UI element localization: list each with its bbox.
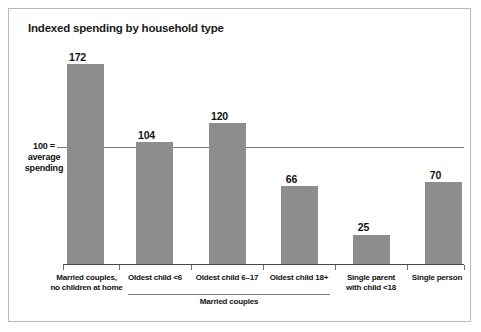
category-label-6: Single person (407, 273, 467, 283)
category-label-4: Oldest child 18+ (263, 273, 335, 283)
y-axis-caption-line-2: average (23, 152, 65, 163)
bar-2[interactable] (136, 142, 173, 264)
axis-tick-5 (335, 265, 336, 270)
axis-tick-2 (119, 265, 120, 270)
category-label-1-line-2: no children at home (49, 283, 124, 293)
axis-tick-7 (464, 265, 465, 270)
y-axis-caption-line-1: 100 = (23, 141, 65, 152)
bar-4[interactable] (281, 186, 318, 264)
bar-6[interactable] (425, 182, 462, 264)
bar-value-2: 104 (118, 129, 175, 141)
category-label-1: Married couples, no children at home (49, 273, 124, 293)
axis-tick-3 (191, 265, 192, 270)
axis-tick-4 (263, 265, 264, 270)
bar-value-1: 172 (49, 51, 106, 63)
axis-tick-6 (407, 265, 408, 270)
bar-value-4: 66 (263, 173, 320, 185)
category-label-4-line-1: Oldest child 18+ (263, 273, 335, 283)
category-label-2: Oldest child <6 (119, 273, 191, 283)
plot-area: 100 = average spending 172 104 120 66 25… (9, 9, 472, 323)
category-label-3: Oldest child 6–17 (191, 273, 263, 283)
category-label-1-line-1: Married couples, (49, 273, 124, 283)
axis-tick-1 (63, 265, 64, 270)
category-label-5-line-1: Single parent (335, 273, 407, 283)
category-label-5: Single parent with child <18 (335, 273, 407, 293)
bar-5[interactable] (353, 235, 390, 264)
category-label-3-line-1: Oldest child 6–17 (191, 273, 263, 283)
bar-3[interactable] (209, 123, 246, 264)
bar-value-5: 25 (335, 221, 392, 233)
y-axis-caption-line-3: spending (23, 163, 65, 174)
group-bracket-label: Married couples (128, 297, 330, 306)
y-axis-caption: 100 = average spending (23, 141, 65, 174)
bar-value-6: 70 (407, 169, 464, 181)
chart-figure: Indexed spending by household type 100 =… (8, 8, 471, 322)
group-bracket-line (128, 294, 330, 295)
category-label-2-line-1: Oldest child <6 (119, 273, 191, 283)
reference-line-100 (57, 147, 464, 148)
category-label-5-line-2: with child <18 (335, 283, 407, 293)
bar-1[interactable] (67, 64, 104, 264)
category-label-6-line-1: Single person (407, 273, 467, 283)
bar-value-3: 120 (191, 110, 248, 122)
